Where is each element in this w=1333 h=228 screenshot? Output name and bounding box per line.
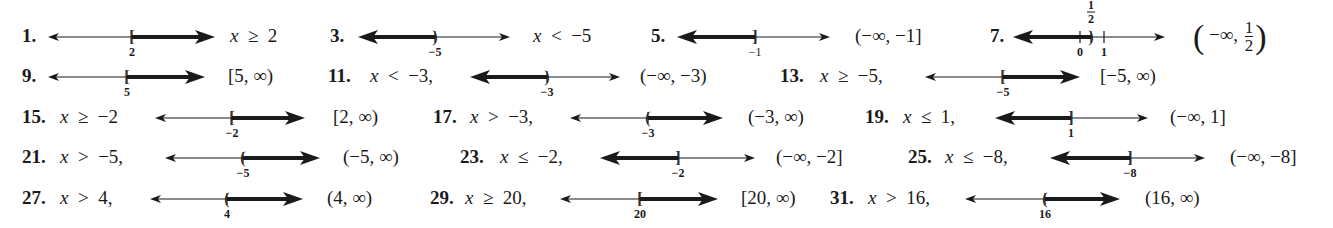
endpoint-label: 4 <box>224 207 230 221</box>
inequality-text: x < −3, <box>370 66 433 86</box>
interval-notation: [20, ∞) <box>741 188 796 208</box>
problem-number: 25. <box>908 147 932 167</box>
problem-number: 23. <box>460 147 484 167</box>
endpoint-label: −3 <box>541 85 554 99</box>
interval-notation: ( −∞, 12) <box>1193 19 1267 54</box>
inequality-text: x ≥ −2 <box>60 107 118 127</box>
interval-notation: (−∞, 1] <box>1170 107 1226 127</box>
problem-number: 19. <box>865 107 889 127</box>
endpoint-label: 5 <box>124 85 130 99</box>
endpoint-label: −1 <box>749 45 762 59</box>
problem-number: 5. <box>651 26 665 46</box>
inequality-text: x > 4, <box>60 188 112 208</box>
inequality-text: x ≤ −8, <box>945 147 1008 167</box>
tick-label: 1 <box>1101 45 1107 59</box>
interval-notation: (−5, ∞) <box>343 147 399 167</box>
problem-number: 29. <box>430 188 454 208</box>
interval-notation: (−3, ∞) <box>748 107 804 127</box>
interval-notation: (4, ∞) <box>327 188 372 208</box>
problem-number: 15. <box>22 107 46 127</box>
interval-notation: [5, ∞) <box>228 66 273 86</box>
inequality-text: x > −5, <box>60 147 123 167</box>
problem-number: 13. <box>780 66 804 86</box>
endpoint-label: 16 <box>1039 207 1051 221</box>
problem-number: 11. <box>328 66 351 86</box>
number-line: ]−1 <box>675 15 834 65</box>
number-line: (4 <box>148 177 307 227</box>
inequality-text: x ≥ −5, <box>820 66 883 86</box>
problem-number: 7. <box>990 26 1004 46</box>
interval-notation: (16, ∞) <box>1145 188 1200 208</box>
interval-notation: (−∞, −3) <box>640 66 707 86</box>
inequality-text: x < −5 <box>533 26 591 46</box>
inequality-text: x ≥ 2 <box>230 26 277 46</box>
interval-notation: (−∞, −8] <box>1230 147 1297 167</box>
interval-notation: (−∞, −1] <box>855 26 922 46</box>
problem-number: 27. <box>22 188 46 208</box>
inequality-text: x ≤ −2, <box>500 147 563 167</box>
inequality-text: x ≥ 20, <box>465 188 527 208</box>
inequality-text: x > 16, <box>868 188 930 208</box>
problem-number: 31. <box>830 188 854 208</box>
fraction-numerator: 1 <box>1088 0 1094 12</box>
problem-number: 1. <box>22 26 36 46</box>
interval-notation: [2, ∞) <box>333 107 378 127</box>
number-line: (16 <box>963 177 1124 227</box>
problem-number: 17. <box>433 107 457 127</box>
interval-notation: [−5, ∞) <box>1100 66 1156 86</box>
interval-notation: (−∞, −2] <box>776 147 843 167</box>
problem-number: 21. <box>22 147 46 167</box>
endpoint-label: 20 <box>634 207 646 221</box>
problem-number: 3. <box>330 26 344 46</box>
number-line: [20 <box>558 177 722 227</box>
inequality-text: x > −3, <box>470 107 533 127</box>
number-line: 01)12 <box>1011 0 1169 57</box>
endpoint-label: −5 <box>429 45 442 59</box>
inequality-text: x ≤ 1, <box>903 107 955 127</box>
fraction-denominator: 2 <box>1088 12 1094 26</box>
problem-number: 9. <box>22 66 36 86</box>
endpoint-label: −8 <box>1124 166 1137 180</box>
